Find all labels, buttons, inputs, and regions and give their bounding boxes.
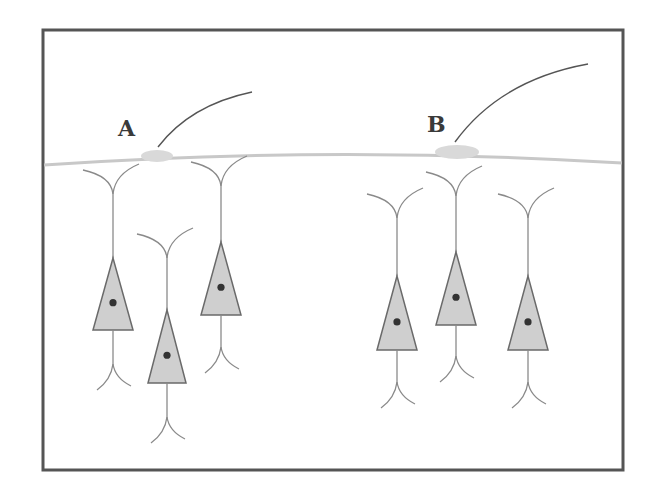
basal-branch-right	[113, 364, 131, 386]
nucleus	[109, 299, 116, 306]
basal-branch-right	[397, 382, 415, 404]
apical-tuft-left	[137, 234, 167, 258]
basal-branch-left	[205, 347, 221, 373]
neuron-1	[83, 164, 139, 390]
basal-branch-left	[97, 364, 113, 390]
site-a: A	[117, 92, 252, 162]
neuron-3	[191, 156, 247, 373]
apical-tuft-left	[83, 170, 113, 194]
basal-branch-right	[221, 347, 239, 369]
basal-branch-right	[167, 417, 185, 439]
nucleus	[393, 318, 400, 325]
neuron-5	[426, 166, 482, 382]
basal-branch-left	[512, 382, 528, 408]
stimulation-sites: AB	[117, 64, 588, 162]
bouton-swelling	[435, 145, 479, 159]
apical-tuft-right	[456, 166, 482, 196]
neuron-4	[367, 188, 423, 408]
soma	[508, 276, 548, 350]
basal-branch-left	[440, 356, 456, 382]
apical-tuft-right	[528, 188, 554, 218]
soma	[377, 276, 417, 350]
soma	[201, 242, 241, 315]
axon-fiber	[158, 92, 252, 147]
apical-tuft-right	[113, 164, 139, 194]
nucleus	[217, 284, 224, 291]
basal-branch-left	[381, 382, 397, 408]
neuron-6	[498, 188, 554, 408]
site-b: B	[427, 64, 588, 159]
pyramidal-neurons	[83, 156, 554, 443]
nucleus	[452, 294, 459, 301]
site-label: A	[117, 115, 136, 141]
nucleus	[524, 318, 531, 325]
bouton-swelling	[141, 150, 173, 162]
basal-branch-right	[456, 356, 474, 378]
basal-branch-right	[528, 382, 546, 404]
soma	[148, 310, 186, 383]
diagram-frame	[43, 30, 623, 470]
neuron-2	[137, 228, 193, 443]
site-label: B	[427, 111, 446, 137]
apical-tuft-left	[426, 172, 456, 196]
apical-tuft-left	[191, 162, 221, 186]
apical-tuft-right	[397, 188, 423, 218]
soma	[93, 258, 133, 330]
basal-branch-left	[151, 417, 167, 443]
nucleus	[163, 352, 170, 359]
soma	[436, 252, 476, 325]
neuron-diagram: AB	[0, 0, 646, 491]
apical-tuft-right	[167, 228, 193, 258]
axon-fiber	[455, 64, 588, 142]
apical-tuft-right	[221, 156, 247, 186]
apical-tuft-left	[498, 194, 528, 218]
apical-tuft-left	[367, 194, 397, 218]
surface-membrane-line	[44, 154, 622, 165]
